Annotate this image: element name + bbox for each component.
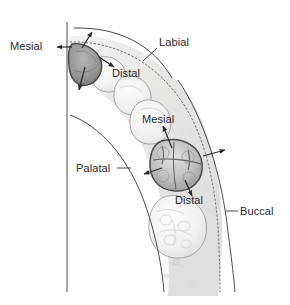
highlighted-first-molar: [150, 139, 202, 191]
label-mesial-incisor: Mesial: [10, 40, 42, 52]
label-labial: Labial: [159, 36, 189, 48]
label-distal-molar: Distal: [175, 194, 203, 206]
label-distal-incisor: Distal: [112, 67, 140, 79]
label-buccal: Buccal: [240, 205, 274, 217]
label-palatal: Palatal: [76, 162, 110, 174]
dental-arch-diagram: Mesial Distal Labial Mesial Palatal Dist…: [0, 0, 290, 305]
diagram-canvas: [0, 0, 290, 305]
label-mesial-molar: Mesial: [142, 113, 174, 125]
